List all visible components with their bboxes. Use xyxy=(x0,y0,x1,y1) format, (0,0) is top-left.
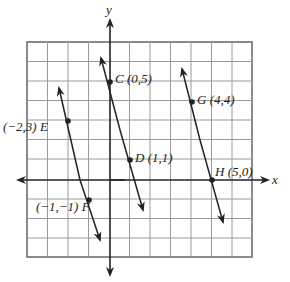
x-axis-label: x xyxy=(271,172,278,187)
line-cd-down xyxy=(120,130,143,210)
label-c: C (0,5) xyxy=(115,71,152,86)
point-h xyxy=(209,177,215,183)
label-d: D (1,1) xyxy=(134,150,173,165)
line-ef xyxy=(59,88,80,180)
coordinate-plane-diagram: x y C (0,5) D (1,1) (−2,3) E (−1,−1) F G… xyxy=(0,0,290,282)
point-d xyxy=(127,157,133,163)
axes xyxy=(18,20,268,275)
label-h: H (5,0) xyxy=(214,164,253,179)
point-e xyxy=(65,118,71,124)
points xyxy=(65,79,215,203)
point-c xyxy=(107,79,113,85)
point-g xyxy=(189,99,195,105)
y-axis-label: y xyxy=(104,2,112,17)
label-g: G (4,4) xyxy=(197,92,235,107)
label-f: (−1,−1) F xyxy=(36,199,91,214)
label-e: (−2,3) E xyxy=(3,119,48,134)
